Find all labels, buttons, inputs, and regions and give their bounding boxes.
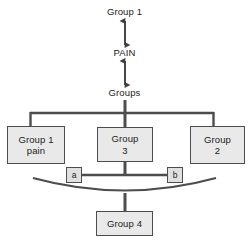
box-group-1-pain[interactable]: Group 1 pain <box>7 126 65 164</box>
box-group-3-label: Group 3 <box>112 133 139 156</box>
node-label-groups: Groups <box>0 87 249 98</box>
box-group-4-label: Group 4 <box>107 218 142 230</box>
box-group-2[interactable]: Group 2 <box>190 126 245 164</box>
node-label-pain: PAIN <box>0 47 249 58</box>
box-marker-a-label: a <box>72 170 77 180</box>
box-group-4[interactable]: Group 4 <box>96 211 153 236</box>
node-label-group-1: Group 1 <box>0 6 249 17</box>
box-group-3[interactable]: Group 3 <box>97 127 153 162</box>
box-marker-b-label: b <box>173 170 178 180</box>
box-marker-b[interactable]: b <box>167 167 183 183</box>
diagram-connectors <box>0 0 249 242</box>
diagram-canvas: Group 1 PAIN Groups Group 1 pain Group 3… <box>0 0 249 242</box>
box-marker-a[interactable]: a <box>66 167 82 183</box>
arc-curve <box>33 178 216 191</box>
box-group-1-pain-label: Group 1 pain <box>18 134 53 157</box>
box-group-2-label: Group 2 <box>204 134 231 157</box>
